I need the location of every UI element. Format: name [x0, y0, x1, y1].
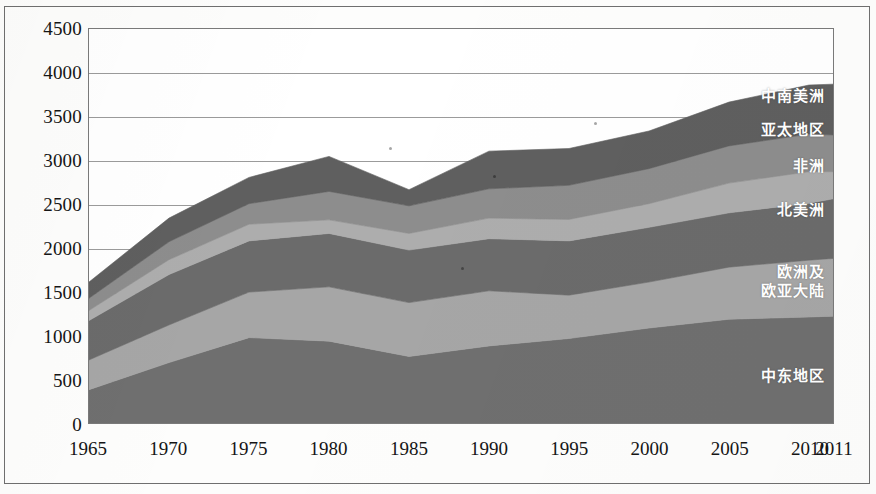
x-tick-1995: 1995: [550, 438, 588, 460]
stacked-area-chart: 4500 4000 3500 3000 2500 2000 1500 1000 …: [0, 0, 876, 494]
figure-page: 4500 4000 3500 3000 2500 2000 1500 1000 …: [0, 0, 876, 494]
y-tick-3000: 3000: [8, 151, 82, 170]
x-tick-1970: 1970: [149, 438, 187, 460]
x-tick-1980: 1980: [310, 438, 348, 460]
series-label-europe-eurasia: 欧洲及 欧亚大陆: [761, 263, 825, 301]
y-tick-500: 500: [8, 371, 82, 390]
series-label-asia-pacific: 亚太地区: [761, 121, 825, 140]
series-label-north-america: 北美洲: [777, 201, 825, 220]
x-tick-2011: 2011: [815, 438, 852, 460]
x-tick-1965: 1965: [69, 438, 107, 460]
x-tick-2000: 2000: [631, 438, 669, 460]
x-tick-1985: 1985: [390, 438, 428, 460]
y-tick-2000: 2000: [8, 239, 82, 258]
y-tick-4500: 4500: [8, 19, 82, 38]
series-label-central-south-america: 中南美洲: [761, 87, 825, 106]
x-tick-1990: 1990: [470, 438, 508, 460]
y-tick-2500: 2500: [8, 195, 82, 214]
y-tick-3500: 3500: [8, 107, 82, 126]
series-label-africa: 非洲: [793, 157, 825, 176]
y-axis: 4500 4000 3500 3000 2500 2000 1500 1000 …: [4, 0, 82, 494]
area-svg: [89, 29, 833, 423]
y-tick-1000: 1000: [8, 327, 82, 346]
area-series-group: [89, 29, 833, 423]
x-axis: 1965197019751980198519901995200020052010…: [88, 438, 834, 468]
y-tick-0: 0: [8, 415, 82, 434]
x-tick-1975: 1975: [229, 438, 267, 460]
x-tick-2005: 2005: [711, 438, 749, 460]
y-tick-1500: 1500: [8, 283, 82, 302]
plot-area: 中南美洲 亚太地区 非洲 北美洲 欧洲及 欧亚大陆 中东地区: [88, 28, 834, 424]
y-tick-4000: 4000: [8, 63, 82, 82]
series-label-middle-east: 中东地区: [761, 367, 825, 386]
